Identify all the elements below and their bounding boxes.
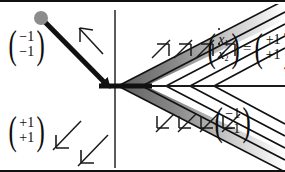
paren-close: ) — [37, 115, 45, 147]
vector-label-upper-left: (−1−1) — [6, 29, 48, 61]
trajectory — [34, 11, 152, 86]
vector-bottom-value: −1 — [225, 122, 240, 137]
rhs-top-value: +1 — [266, 33, 281, 48]
phase-portrait-figure: (−1−1) (+1+1) (−1−1) (x1x2) = (+1+1) — [0, 0, 285, 172]
x2-dot-term: x2 — [218, 48, 228, 63]
paren-open: ( — [215, 106, 223, 138]
vector-top-value: +1 — [19, 116, 34, 131]
band-arrowhead-down-left — [157, 116, 169, 128]
vector-bottom-value: +1 — [19, 131, 34, 146]
band-arrow-up-right — [152, 40, 170, 58]
paren-open: ( — [255, 32, 263, 64]
paren-close: ) — [37, 29, 45, 61]
approach-segment — [41, 18, 107, 85]
vector-top-value: −1 — [225, 107, 240, 122]
vector-label-lower-right: (−1−1) — [212, 106, 254, 138]
paren-open: ( — [9, 115, 17, 147]
field-arrow-down-left — [79, 28, 103, 54]
paren-close: ) — [243, 106, 251, 138]
paren-open: ( — [208, 32, 216, 64]
vector-label-lower-left: (+1+1) — [6, 115, 48, 147]
paren-close: ) — [283, 32, 285, 64]
vector-bottom-value: −1 — [19, 45, 34, 60]
x1-dot-term: x1 — [218, 33, 228, 48]
chevron-stripe — [118, 86, 285, 172]
equals-sign: = — [242, 41, 252, 56]
paren-close: ) — [231, 32, 239, 64]
rhs-bottom-value: +1 — [266, 48, 281, 63]
vector-top-value: −1 — [19, 30, 34, 45]
field-arrow-up-right — [53, 121, 81, 150]
state-derivative-equation: (x1x2) = (+1+1) — [205, 32, 285, 64]
field-arrowhead-up-right — [56, 135, 69, 148]
band-arrowhead-up-right — [157, 44, 169, 56]
paren-open: ( — [9, 29, 17, 61]
field-arrow-up-right — [78, 135, 108, 166]
band-arrow-down-left — [156, 114, 174, 132]
